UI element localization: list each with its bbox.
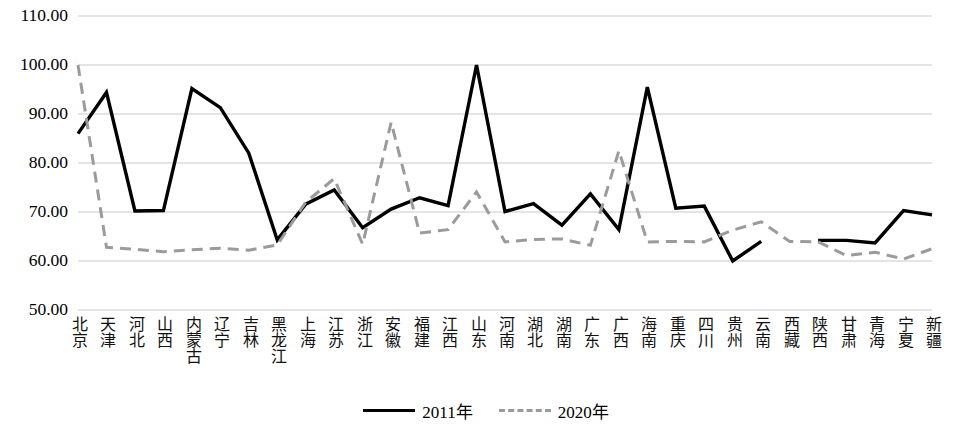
legend-label-2011: 2011年 — [422, 398, 472, 423]
x-tick-text: 内蒙古 — [184, 316, 200, 364]
y-tick-label: 100.00 — [20, 56, 68, 74]
x-tick-text: 河北 — [127, 316, 143, 348]
x-tick-text: 贵州 — [725, 316, 741, 348]
series-line-2011年 — [818, 211, 932, 243]
x-tick-label: 云南 — [750, 316, 772, 352]
x-tick-text: 辽宁 — [212, 316, 228, 348]
line-chart: 50.0060.0070.0080.0090.00100.00110.00 北京… — [0, 0, 972, 437]
x-tick-label: 山东 — [466, 316, 488, 352]
x-axis: 北京天津河北山西内蒙古辽宁吉林黑龙江上海江苏浙江安徽福建江西山东河南湖北湖南广东… — [78, 316, 932, 406]
x-tick-label: 安徽 — [380, 316, 402, 352]
x-tick-text: 四川 — [696, 316, 712, 348]
x-tick-label: 湖北 — [522, 316, 544, 352]
x-tick-text: 安徽 — [383, 316, 399, 348]
x-tick-label: 浙江 — [352, 316, 374, 352]
y-tick-label: 90.00 — [29, 105, 68, 123]
x-tick-label: 天津 — [95, 316, 117, 352]
y-axis: 50.0060.0070.0080.0090.00100.00110.00 — [0, 0, 76, 330]
x-tick-label: 广西 — [608, 316, 630, 352]
x-tick-text: 山东 — [469, 316, 485, 348]
x-tick-text: 北京 — [70, 316, 86, 348]
x-tick-text: 海南 — [639, 316, 655, 348]
x-tick-text: 陕西 — [810, 316, 826, 348]
x-tick-label: 黑龙江 — [266, 316, 288, 368]
x-tick-label: 贵州 — [722, 316, 744, 352]
x-tick-label: 宁夏 — [893, 316, 915, 352]
x-tick-text: 天津 — [98, 316, 114, 348]
x-tick-text: 黑龙江 — [269, 316, 285, 364]
x-tick-label: 西藏 — [779, 316, 801, 352]
x-tick-text: 河南 — [497, 316, 513, 348]
legend-swatch-dashed-icon — [499, 409, 551, 412]
y-tick-label: 60.00 — [29, 252, 68, 270]
x-tick-text: 广西 — [611, 316, 627, 348]
x-tick-label: 江苏 — [323, 316, 345, 352]
x-tick-label: 吉林 — [238, 316, 260, 352]
x-tick-label: 甘肃 — [836, 316, 858, 352]
series-line-2020年 — [78, 65, 932, 259]
x-tick-text: 云南 — [753, 316, 769, 348]
x-tick-text: 吉林 — [241, 316, 257, 348]
x-tick-text: 青海 — [867, 316, 883, 348]
x-tick-label: 河南 — [494, 316, 516, 352]
x-tick-text: 重庆 — [668, 316, 684, 348]
x-tick-label: 陕西 — [807, 316, 829, 352]
x-tick-text: 福建 — [412, 316, 428, 348]
y-tick-label: 110.00 — [21, 7, 68, 25]
x-tick-text: 浙江 — [355, 316, 371, 348]
x-tick-text: 宁夏 — [896, 316, 912, 348]
x-tick-text: 西藏 — [782, 316, 798, 348]
x-tick-text: 湖北 — [525, 316, 541, 348]
x-tick-label: 广东 — [579, 316, 601, 352]
x-tick-label: 山西 — [152, 316, 174, 352]
x-tick-label: 四川 — [693, 316, 715, 352]
x-tick-text: 甘肃 — [839, 316, 855, 348]
plot-area — [78, 0, 932, 311]
x-tick-text: 江西 — [440, 316, 456, 348]
x-tick-label: 上海 — [295, 316, 317, 352]
legend-label-2020: 2020年 — [558, 398, 609, 423]
x-tick-label: 重庆 — [665, 316, 687, 352]
x-tick-text: 广东 — [582, 316, 598, 348]
x-tick-label: 江西 — [437, 316, 459, 352]
plot-svg — [78, 0, 932, 311]
x-tick-label: 海南 — [636, 316, 658, 352]
y-tick-label: 70.00 — [29, 203, 68, 221]
x-tick-text: 新疆 — [924, 316, 940, 348]
x-tick-text: 江苏 — [326, 316, 342, 348]
chart-legend: 2011年 2020年 — [0, 398, 972, 423]
x-tick-label: 辽宁 — [209, 316, 231, 352]
legend-item-2011: 2011年 — [363, 398, 472, 423]
x-tick-text: 山西 — [155, 316, 171, 348]
x-tick-label: 北京 — [67, 316, 89, 352]
x-tick-text: 湖南 — [554, 316, 570, 348]
x-tick-label: 福建 — [409, 316, 431, 352]
legend-item-2020: 2020年 — [499, 398, 609, 423]
x-tick-label: 青海 — [864, 316, 886, 352]
legend-swatch-solid-icon — [363, 409, 415, 412]
y-tick-label: 80.00 — [29, 154, 68, 172]
x-tick-label: 河北 — [124, 316, 146, 352]
x-tick-label: 内蒙古 — [181, 316, 203, 368]
x-tick-label: 新疆 — [921, 316, 943, 352]
x-tick-label: 湖南 — [551, 316, 573, 352]
y-tick-label: 50.00 — [29, 301, 68, 319]
x-tick-text: 上海 — [298, 316, 314, 348]
